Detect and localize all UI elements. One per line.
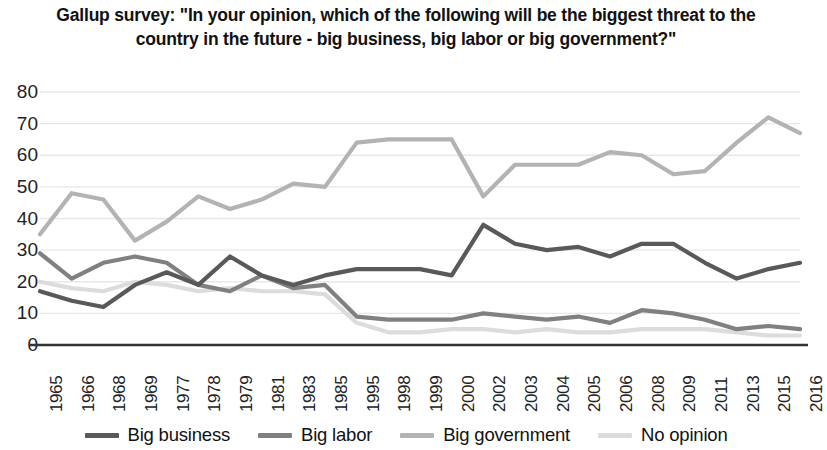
x-tick-label: 2004 <box>554 376 574 412</box>
legend-item-big-government[interactable]: Big government <box>400 424 570 446</box>
x-tick-label: 1981 <box>269 376 289 412</box>
series-line-big-labor <box>40 253 800 329</box>
x-tick-label: 1979 <box>237 376 257 412</box>
x-tick-label: 1969 <box>142 376 162 412</box>
x-tick-label: 2005 <box>585 376 605 412</box>
x-tick-label: 1966 <box>79 376 99 412</box>
x-tick-label: 2000 <box>459 376 479 412</box>
legend-swatch-icon <box>85 433 119 438</box>
x-tick-label: 1995 <box>364 376 384 412</box>
x-tick-label: 2006 <box>617 376 637 412</box>
legend-swatch-icon <box>400 433 434 438</box>
legend-item-no-opinion[interactable]: No opinion <box>598 424 727 446</box>
x-tick-label: 2011 <box>712 377 732 412</box>
legend-swatch-icon <box>258 433 292 438</box>
legend-item-big-labor[interactable]: Big labor <box>258 424 372 446</box>
x-tick-label: 2009 <box>680 376 700 412</box>
x-tick-label: 1977 <box>174 376 194 412</box>
legend-item-big-business[interactable]: Big business <box>85 424 231 446</box>
x-tick-label: 1999 <box>427 376 447 412</box>
chart-legend: Big businessBig laborBig governmentNo op… <box>0 420 812 450</box>
x-tick-label: 1968 <box>110 376 130 412</box>
x-tick-label: 1965 <box>47 376 67 412</box>
x-tick-label: 2016 <box>807 376 827 412</box>
legend-label: Big business <box>128 424 231 446</box>
x-tick-label: 2003 <box>522 376 542 412</box>
x-tick-label: 1985 <box>332 376 352 412</box>
legend-swatch-icon <box>598 433 632 438</box>
x-tick-label: 1978 <box>205 376 225 412</box>
x-tick-label: 2015 <box>775 376 795 412</box>
x-tick-label: 1983 <box>300 376 320 412</box>
legend-label: No opinion <box>641 424 727 446</box>
series-line-big-business <box>40 225 800 307</box>
legend-label: Big labor <box>301 424 372 446</box>
series-line-no-opinion <box>40 282 800 336</box>
x-tick-label: 2002 <box>490 376 510 412</box>
x-tick-label: 1998 <box>395 376 415 412</box>
x-tick-label: 2013 <box>744 376 764 412</box>
legend-label: Big government <box>443 424 570 446</box>
x-tick-label: 2008 <box>649 376 669 412</box>
series-line-big-government <box>40 117 800 240</box>
